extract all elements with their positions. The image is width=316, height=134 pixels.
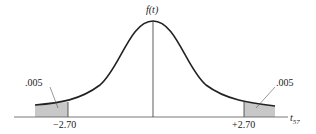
right-critical-value: +2.70	[232, 119, 255, 130]
right-tail-area: .005	[276, 77, 294, 88]
density-curve	[35, 21, 275, 106]
left-critical-value: −2.70	[53, 119, 76, 130]
x-axis-label: t57	[290, 112, 300, 126]
t-distribution-plot	[0, 0, 316, 134]
y-axis-label: f(t)	[146, 4, 158, 15]
left-tail-area: .005	[25, 77, 43, 88]
